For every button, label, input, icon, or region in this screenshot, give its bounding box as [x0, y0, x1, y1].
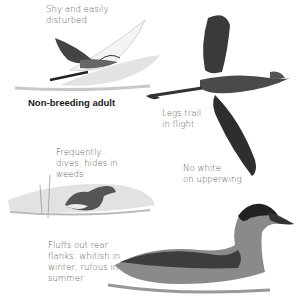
caption-line: weeds — [56, 169, 118, 180]
caption-line: Shy and easily — [46, 4, 109, 15]
caption-line: disturbed — [46, 15, 109, 26]
caption-line: dives, hides in — [56, 158, 118, 169]
caption-line: summer — [48, 273, 120, 284]
bird-in-weeds-icon — [8, 175, 155, 218]
caption-dives: Frequently dives, hides in weeds — [56, 147, 118, 180]
caption-line: Fluffs out rear — [48, 240, 120, 251]
caption-line: in flight — [162, 119, 201, 130]
section-heading: Non-breeding adult — [28, 97, 115, 108]
caption-line: Frequently — [56, 147, 118, 158]
caption-shy: Shy and easily disturbed — [46, 4, 109, 26]
bird-flying-pale-icon — [15, 20, 160, 90]
caption-upperwing: No white on upperwing — [183, 163, 242, 185]
caption-line: on upperwing — [183, 174, 242, 185]
caption-fluffs: Fluffs out rear flanks: whitish in winte… — [48, 240, 120, 284]
bird-swimming-icon — [108, 204, 294, 292]
caption-legs: Legs trail in flight — [162, 108, 201, 130]
caption-line: winter, rufous in — [48, 262, 120, 273]
caption-line: Legs trail — [162, 108, 201, 119]
caption-line: No white — [183, 163, 242, 174]
illustrations-layer — [0, 0, 296, 308]
caption-line: flanks: whitish in — [48, 251, 120, 262]
bird-flying-dark-icon — [146, 15, 290, 176]
